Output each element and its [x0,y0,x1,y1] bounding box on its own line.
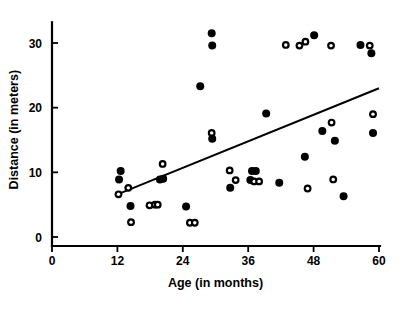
data-point-filled [369,129,377,137]
data-point-open [127,218,135,226]
data-point-filled [310,31,318,39]
data-point-filled [208,42,216,50]
data-point-filled [262,109,270,117]
data-point-filled [252,167,260,175]
x-tick-label-36: 36 [242,254,256,268]
data-point-filled [340,192,348,200]
axes [52,22,380,246]
x-tick-label-60: 60 [372,254,386,268]
data-point-filled [196,82,204,90]
y-tick-label-20: 20 [29,101,43,115]
data-point-open [302,38,310,46]
data-point-filled [226,184,234,192]
data-point-open [304,185,312,193]
data-point-filled [275,179,283,187]
scatter-plot-figure: 010203001224364860 Age (in months)Distan… [0,0,405,309]
data-point-filled [126,202,134,210]
x-tick-label-12: 12 [111,254,125,268]
data-point-open [255,177,263,185]
data-point-open [191,219,199,227]
data-point-open [226,166,234,174]
x-axis-title: Age (in months) [168,276,263,290]
data-point-filled [318,127,326,135]
axis-tick-labels: 010203001224364860 [29,37,386,269]
data-point-open [208,129,216,137]
x-tick-label-48: 48 [307,254,321,268]
data-point-open [159,160,167,168]
data-point-open [115,190,123,198]
data-point-open [369,110,377,118]
y-axis-title: Distance (in meters) [7,70,21,189]
data-point-filled [208,29,216,37]
data-point-open [329,176,337,184]
data-point-open [124,184,132,192]
y-tick-label-0: 0 [35,231,42,245]
data-point-open [328,119,336,127]
data-points [115,29,377,226]
data-point-open [282,41,290,49]
x-tick-label-24: 24 [176,254,190,268]
y-tick-label-10: 10 [29,166,43,180]
data-point-filled [331,137,339,145]
data-point-open [232,176,240,184]
plot-canvas: 010203001224364860 Age (in months)Distan… [0,0,405,309]
y-tick-label-30: 30 [29,37,43,51]
data-point-filled [301,153,309,161]
data-point-open [366,42,374,50]
data-point-open [154,201,162,209]
data-point-filled [115,175,123,183]
data-point-open [327,42,335,50]
axis-ticks [52,43,379,252]
data-point-filled [117,167,125,175]
x-tick-label-0: 0 [49,254,56,268]
data-point-filled [367,49,375,57]
data-point-filled [182,203,190,211]
axis-titles: Age (in months)Distance (in meters) [7,70,263,290]
data-point-filled [159,175,167,183]
data-point-filled [356,41,364,49]
